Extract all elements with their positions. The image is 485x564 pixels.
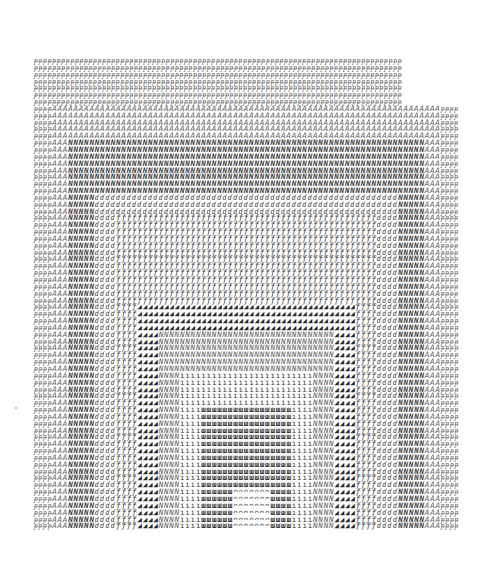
stray-dot bbox=[15, 407, 17, 409]
ascii-art-canvas: ᵽᵽᵽᵽᵽᵽᵽᵽᵽᵽᵽᵽᵽᵽᵽᵽᵽᵽᵽᵽᵽᵽᵽᵽᵽᵽᵽᵽᵽᵽᵽᵽᵽᵽᵽᵽᵽᵽᵽᵽ… bbox=[34, 58, 459, 530]
art-row: ᵽᵽᵽᵽAAANNNNNɗɗɗɗƒƒƒƒ◢◢◢◢NNNNııııшшшшшшᴖᴖ… bbox=[34, 523, 459, 530]
